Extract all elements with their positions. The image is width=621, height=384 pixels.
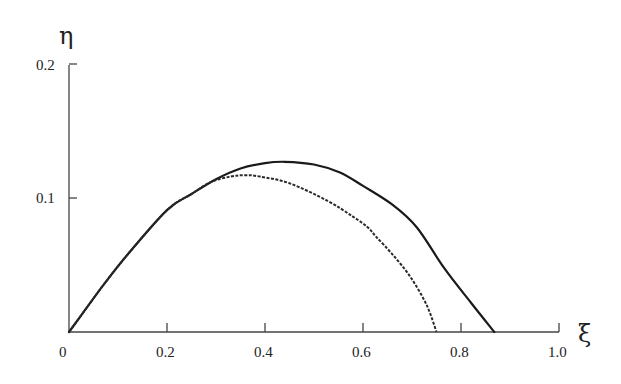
x-tick-label: 0.2 <box>156 344 175 360</box>
chart: 00.20.40.60.81.0 0.10.2 η ξ <box>0 0 621 384</box>
y-tick-label: 0.2 <box>36 57 55 73</box>
x-tick-label: 0.6 <box>352 344 371 360</box>
y-ticks: 0.10.2 <box>36 57 77 206</box>
y-tick-label: 0.1 <box>36 190 55 206</box>
axes: 00.20.40.60.81.0 0.10.2 <box>36 57 567 360</box>
x-axis-title: ξ <box>578 320 591 348</box>
x-tick-label: 0.4 <box>254 344 273 360</box>
series-dashed-curve <box>69 175 437 332</box>
series-solid-curve <box>69 162 494 332</box>
x-tick-label: 0.8 <box>450 344 469 360</box>
series <box>69 162 494 332</box>
x-tick-label: 1.0 <box>548 344 567 360</box>
x-tick-label: 0 <box>59 344 67 360</box>
y-axis-title: η <box>59 22 73 50</box>
